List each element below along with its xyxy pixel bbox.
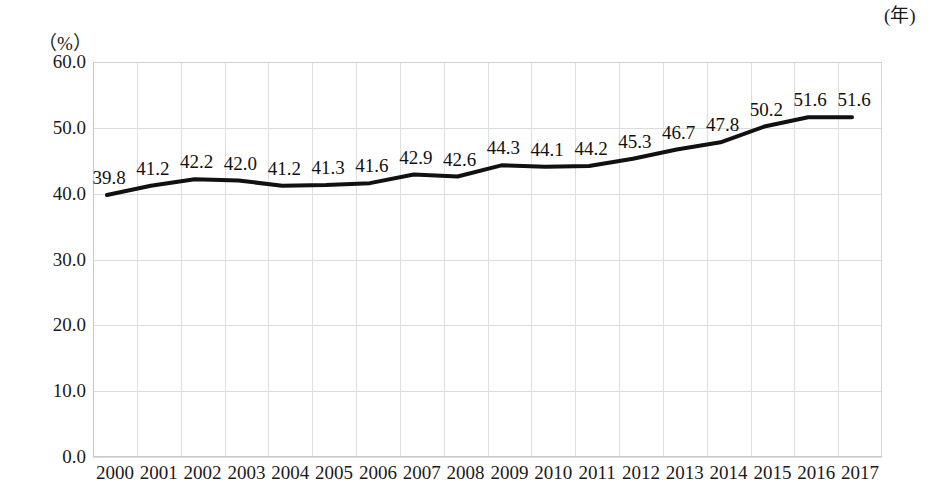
y-axis-tick-label: 50.0 (2, 117, 86, 139)
y-axis-tick-label: 40.0 (2, 183, 86, 205)
data-point-label: 50.2 (750, 99, 783, 121)
x-axis-tick-label: 2015 (753, 462, 791, 484)
data-point-label: 42.0 (224, 153, 257, 175)
data-point-label: 44.3 (487, 137, 520, 159)
y-axis-tick-label: 20.0 (2, 314, 86, 336)
y-axis-tick-label: 10.0 (2, 380, 86, 402)
y-axis-tick-labels: 60.050.040.030.020.010.00.0 (0, 62, 86, 457)
data-point-label: 41.2 (268, 158, 301, 180)
x-axis-tick-label: 2000 (96, 462, 134, 484)
x-axis-tick-label: 2006 (359, 462, 397, 484)
data-point-label: 41.3 (311, 157, 344, 179)
data-point-label: 45.3 (618, 131, 651, 153)
y-axis-tick-label: 60.0 (2, 51, 86, 73)
data-point-label: 39.8 (92, 167, 125, 189)
x-axis-tick-label: 2004 (271, 462, 309, 484)
data-point-label: 44.1 (531, 139, 564, 161)
gridline-horizontal (93, 457, 882, 458)
data-point-label: 42.6 (443, 149, 476, 171)
x-axis-tick-label: 2003 (227, 462, 265, 484)
x-axis-tick-label: 2011 (578, 462, 615, 484)
x-axis-tick-label: 2007 (403, 462, 441, 484)
data-point-label: 51.6 (837, 89, 870, 111)
data-point-label: 42.9 (399, 147, 432, 169)
x-axis-tick-label: 2012 (622, 462, 660, 484)
x-axis-tick-label: 2010 (534, 462, 572, 484)
x-axis-tick-label: 2014 (710, 462, 748, 484)
x-axis-unit-label: (年) (884, 0, 916, 27)
data-point-label: 41.2 (136, 158, 169, 180)
data-point-label: 51.6 (794, 89, 827, 111)
x-axis-tick-label: 2016 (797, 462, 835, 484)
data-point-label: 47.8 (706, 114, 739, 136)
x-axis-tick-label: 2001 (140, 462, 178, 484)
data-point-label: 42.2 (180, 151, 213, 173)
x-axis-tick-label: 2002 (184, 462, 222, 484)
chart-page: （%） 60.050.040.030.020.010.00.0 39.841.2… (0, 0, 932, 497)
data-point-label: 46.7 (662, 122, 695, 144)
y-axis-tick-label: 30.0 (2, 249, 86, 271)
x-axis-tick-label: 2009 (490, 462, 528, 484)
plot-area: 39.841.242.242.041.241.341.642.942.644.3… (93, 62, 882, 457)
data-point-label: 44.2 (574, 138, 607, 160)
line-series (93, 62, 882, 457)
x-axis-tick-label: 2008 (447, 462, 485, 484)
x-axis-tick-label: 2005 (315, 462, 353, 484)
data-point-label: 41.6 (355, 155, 388, 177)
y-axis-tick-label: 0.0 (2, 446, 86, 468)
x-axis-tick-label: 2013 (666, 462, 704, 484)
x-axis-tick-labels: 2000200120022003200420052006200720082009… (93, 462, 882, 494)
x-axis-tick-label: 2017 (841, 462, 879, 484)
